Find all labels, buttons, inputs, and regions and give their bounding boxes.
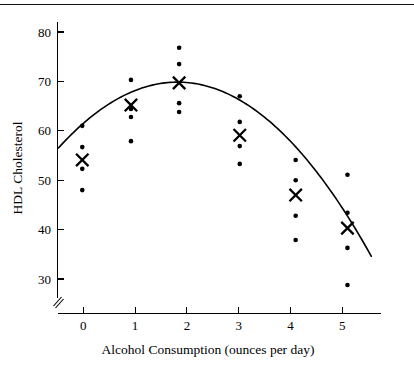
data-point (293, 238, 298, 243)
x-tick-label-1: 1 (132, 318, 139, 333)
group-mean-marker (341, 222, 353, 234)
data-point (177, 101, 182, 106)
data-point (129, 139, 134, 144)
data-point (129, 115, 134, 120)
x-axis-ticks (83, 307, 342, 314)
data-point (129, 78, 134, 83)
y-axis-title: HDL Cholesterol (10, 121, 25, 214)
group-mean-marker (234, 129, 246, 141)
y-tick-label-40: 40 (38, 222, 51, 237)
y-tick-label-70: 70 (38, 74, 51, 89)
data-point (177, 62, 182, 67)
data-points-layer (80, 46, 350, 288)
y-tick-label-80: 80 (38, 25, 51, 40)
x-tick-label-2: 2 (184, 318, 191, 333)
figure-container: 80 70 60 50 40 30 0 1 2 3 4 5 Alcohol Co… (0, 0, 414, 371)
data-point (237, 144, 242, 149)
group-mean-marker (289, 189, 301, 201)
data-point (237, 120, 242, 125)
group-mean-marker (76, 154, 88, 166)
x-tick-label-3: 3 (235, 318, 242, 333)
data-point (345, 283, 350, 288)
data-point (345, 211, 350, 216)
y-tick-label-30: 30 (38, 272, 51, 287)
x-tick-label-0: 0 (80, 318, 87, 333)
mean-markers-layer (76, 77, 354, 235)
y-axis-ticks (58, 32, 65, 279)
data-point (177, 110, 182, 115)
data-point (293, 178, 298, 183)
x-axis-title: Alcohol Consumption (ounces per day) (102, 342, 315, 357)
y-tick-label-60: 60 (38, 123, 51, 138)
axes-group (54, 22, 382, 314)
data-point (80, 145, 85, 150)
fitted-quadratic-curve (58, 82, 371, 256)
data-point (345, 246, 350, 251)
data-point (293, 158, 298, 163)
y-tick-label-50: 50 (38, 173, 51, 188)
data-point (237, 162, 242, 167)
data-point (293, 213, 298, 218)
data-point (80, 188, 85, 193)
data-point (237, 94, 242, 99)
x-tick-label-5: 5 (339, 318, 346, 333)
axis-break-icon (54, 297, 64, 308)
x-tick-label-4: 4 (287, 318, 294, 333)
scatter-plot: 80 70 60 50 40 30 0 1 2 3 4 5 Alcohol Co… (0, 0, 414, 371)
data-point (177, 46, 182, 51)
x-axis-tick-labels: 0 1 2 3 4 5 (80, 318, 346, 333)
data-point (345, 172, 350, 177)
data-point (80, 124, 85, 129)
data-point (80, 167, 85, 172)
y-axis-tick-labels: 80 70 60 50 40 30 (38, 25, 51, 287)
